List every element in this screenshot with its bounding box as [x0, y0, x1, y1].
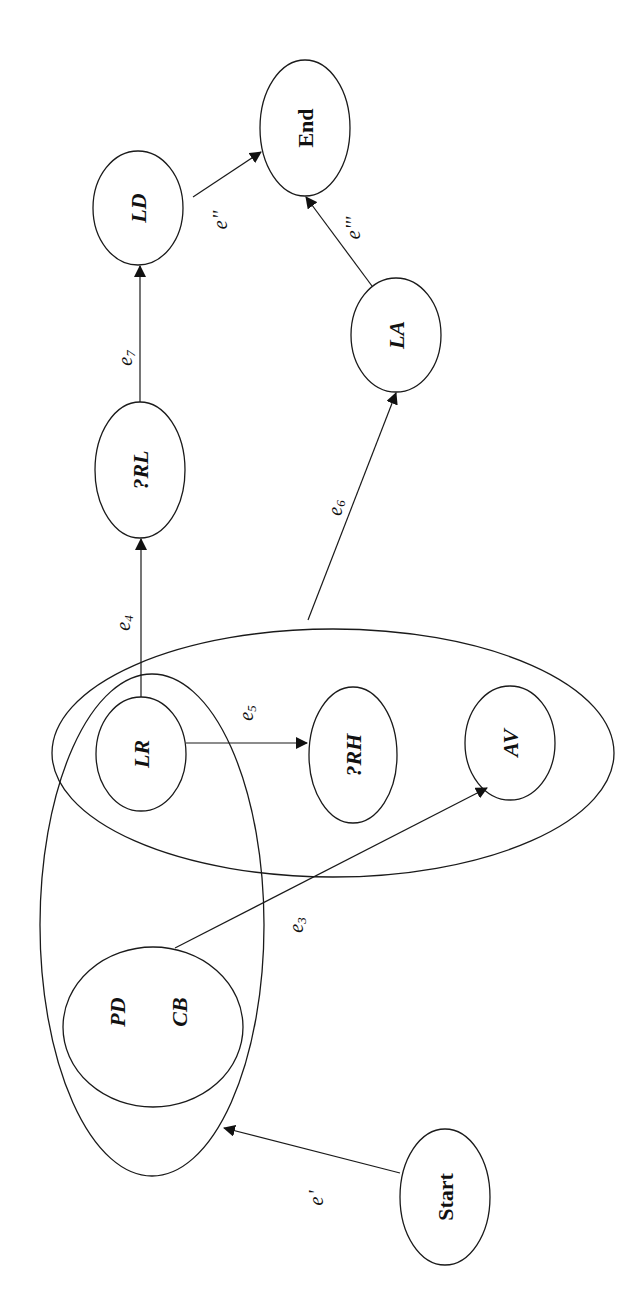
edge-e-dprime [193, 152, 261, 197]
edge-label-e-dprime: e'' [209, 210, 231, 229]
node-end-label: End [293, 108, 318, 147]
edge-e6 [308, 393, 396, 620]
svg-text:e'': e'' [209, 210, 231, 229]
svg-text:e3: e3 [285, 917, 309, 933]
node-la-label: LA [384, 321, 409, 350]
edge-label-e-prime: e' [305, 1190, 327, 1206]
edge-e-tprime [306, 197, 372, 286]
node-start-label: Start [433, 1173, 458, 1221]
node-ld-label: LD [126, 193, 151, 223]
svg-text:e5: e5 [235, 705, 259, 721]
edge-label-e7: e7 [114, 350, 138, 366]
edge-label-e3: e3 [285, 917, 309, 933]
state-diagram: End LD LA ?RL LR ?RH AV PD CB Start e' e… [0, 0, 644, 1296]
node-lr-label: LR [129, 740, 154, 769]
svg-text:e4: e4 [112, 615, 136, 631]
edge-label-e5: e5 [235, 705, 259, 721]
svg-text:e6: e6 [324, 500, 348, 516]
node-pd-label: PD [105, 997, 130, 1027]
node-cb-label: CB [167, 997, 192, 1026]
edge-label-e6: e6 [324, 500, 348, 516]
edge-label-e4: e4 [112, 615, 136, 631]
svg-text:e': e' [305, 1190, 327, 1206]
edge-e-prime [224, 1128, 400, 1173]
svg-text:e''': e''' [342, 216, 364, 239]
node-av-label: AV [498, 727, 523, 759]
group-pd-cb-ellipse [63, 947, 243, 1107]
edge-label-e-tprime: e''' [342, 216, 364, 239]
node-rh-label: ?RH [341, 733, 366, 777]
svg-text:e7: e7 [114, 350, 138, 366]
node-rl-label: ?RL [128, 450, 153, 489]
